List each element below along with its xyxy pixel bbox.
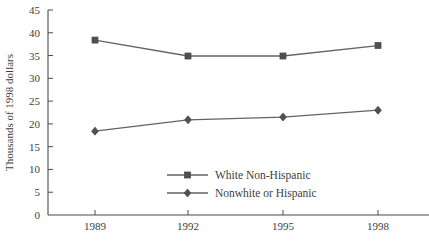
data-point	[92, 127, 99, 135]
x-tick-label: 1989	[84, 220, 107, 232]
legend-marker-square	[185, 172, 191, 178]
series-2	[92, 106, 382, 135]
series-line	[95, 110, 378, 131]
y-tick-label: 25	[29, 95, 41, 107]
y-tick-label: 10	[29, 163, 41, 175]
x-tick-label: 1992	[177, 220, 199, 232]
legend: White Non-HispanicNonwhite or Hispanic	[167, 169, 317, 200]
x-tick-label: 1995	[272, 220, 295, 232]
chart-canvas: 051015202530354045Thousands of 1998 doll…	[0, 0, 429, 245]
y-tick-label: 20	[29, 118, 41, 130]
y-tick-label: 15	[29, 141, 41, 153]
line-chart: 051015202530354045Thousands of 1998 doll…	[0, 0, 429, 245]
legend-item-1: White Non-Hispanic	[167, 169, 311, 182]
data-point	[280, 113, 287, 121]
legend-item-2: Nonwhite or Hispanic	[167, 187, 317, 200]
data-point	[92, 37, 98, 43]
legend-marker-diamond	[184, 189, 191, 197]
data-point	[375, 106, 382, 114]
x-tick-label: 1998	[367, 220, 390, 232]
data-point	[280, 53, 286, 59]
y-tick-label: 30	[29, 72, 41, 84]
y-tick-label: 40	[29, 27, 41, 39]
legend-label: Nonwhite or Hispanic	[215, 187, 317, 200]
y-tick-label: 0	[35, 209, 41, 221]
y-tick-label: 45	[29, 4, 41, 16]
y-axis-title: Thousands of 1998 dollars	[3, 54, 15, 171]
y-tick-label: 35	[29, 50, 41, 62]
y-tick-label: 5	[35, 186, 41, 198]
series-1	[92, 37, 381, 59]
series-line	[95, 40, 378, 56]
data-point	[375, 43, 381, 49]
data-point	[185, 53, 191, 59]
legend-label: White Non-Hispanic	[215, 169, 311, 182]
data-point	[185, 116, 192, 124]
